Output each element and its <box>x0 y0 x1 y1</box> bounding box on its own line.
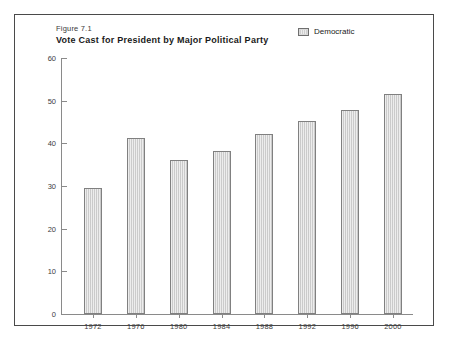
bar-1984[interactable] <box>213 151 231 314</box>
bar-group: 1988 <box>244 57 284 314</box>
x-tick-label: 1992 <box>287 322 327 331</box>
x-tick-mark <box>307 314 308 318</box>
y-tick-mark <box>61 271 67 272</box>
x-tick-label: 1988 <box>244 322 284 331</box>
bar-1976[interactable] <box>127 138 145 314</box>
bar-1996[interactable] <box>341 110 359 314</box>
x-tick-mark <box>93 314 94 318</box>
x-tick-label: 2000 <box>373 322 413 331</box>
figure-title: Vote Cast for President by Major Politic… <box>56 35 268 45</box>
y-tick-mark <box>61 101 67 102</box>
plot-area: 0102030405060 19721976198019841988199219… <box>61 58 413 315</box>
y-tick-label: 60 <box>48 54 56 63</box>
bar-group: 1992 <box>287 57 327 314</box>
bar-1980[interactable] <box>170 160 188 314</box>
x-tick-mark <box>136 314 137 318</box>
bar-group: 1984 <box>202 57 242 314</box>
chart-legend: Democratic <box>298 27 354 36</box>
y-tick-mark <box>61 186 67 187</box>
y-tick-label: 30 <box>48 182 56 191</box>
y-tick-mark <box>61 58 67 59</box>
figure-frame: Figure 7.1 Vote Cast for President by Ma… <box>14 14 434 326</box>
x-tick-label: 1976 <box>116 322 156 331</box>
bar-1988[interactable] <box>255 134 273 314</box>
y-tick-label: 0 <box>52 310 56 319</box>
y-tick-mark <box>61 143 67 144</box>
bar-group: 1996 <box>330 57 370 314</box>
x-tick-label: 1980 <box>159 322 199 331</box>
x-tick-mark <box>393 314 394 318</box>
x-tick-label: 1984 <box>202 322 242 331</box>
x-tick-mark <box>350 314 351 318</box>
x-tick-mark <box>222 314 223 318</box>
y-tick-mark <box>61 229 67 230</box>
x-tick-mark <box>179 314 180 318</box>
bar-group: 2000 <box>373 57 413 314</box>
bar-1972[interactable] <box>84 188 102 314</box>
x-axis-line <box>61 314 413 315</box>
y-tick-label: 20 <box>48 224 56 233</box>
y-tick-label: 10 <box>48 267 56 276</box>
y-tick-label: 40 <box>48 139 56 148</box>
bar-2000[interactable] <box>384 94 402 314</box>
x-tick-mark <box>264 314 265 318</box>
x-tick-label: 1972 <box>73 322 113 331</box>
bar-group: 1976 <box>116 57 156 314</box>
legend-label-democratic: Democratic <box>314 27 354 36</box>
bar-group: 1980 <box>159 57 199 314</box>
x-tick-label: 1996 <box>330 322 370 331</box>
bar-group: 1972 <box>73 57 113 314</box>
bar-1992[interactable] <box>298 121 316 314</box>
y-tick-mark <box>61 314 67 315</box>
figure-number: Figure 7.1 <box>56 24 92 33</box>
legend-swatch-democratic <box>298 28 309 36</box>
y-tick-label: 50 <box>48 96 56 105</box>
